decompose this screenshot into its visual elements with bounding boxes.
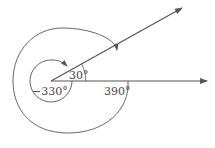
label-390: 390° <box>104 85 131 98</box>
label-negative-330: −330° <box>32 85 68 98</box>
label-30: 30° <box>69 69 89 82</box>
angle-diagram: 30° −330° 390° <box>0 0 215 148</box>
